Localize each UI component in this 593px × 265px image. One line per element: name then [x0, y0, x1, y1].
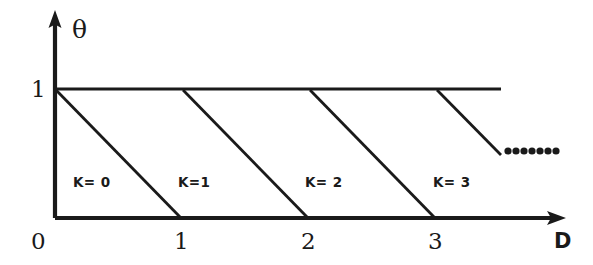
region-label-k0: K= 0: [73, 176, 110, 190]
y-axis-label-theta: θ: [72, 17, 87, 42]
x-axis-label-d: D: [554, 231, 571, 252]
region-label-k1: K=1: [178, 176, 210, 190]
x-tick-label-3: 3: [428, 230, 443, 253]
ramp-line-k3: [437, 90, 501, 155]
ramp-line-k0: [56, 90, 181, 218]
x-tick-label-1: 1: [174, 230, 189, 253]
ramp-line-k2: [310, 90, 435, 218]
region-label-k2: K= 2: [305, 176, 342, 190]
figure-root: θ D 1 0 1 2 3 K= 0 K=1 K= 2 K= 3: [0, 0, 593, 265]
ramp-line-k1: [183, 90, 308, 218]
sawtooth-diagram: [0, 0, 593, 265]
continuation-dots-icon: [504, 147, 559, 154]
x-tick-label-2: 2: [301, 230, 316, 253]
origin-label-0: 0: [31, 230, 46, 253]
y-tick-label-1: 1: [31, 78, 46, 101]
region-label-k3: K= 3: [433, 176, 470, 190]
